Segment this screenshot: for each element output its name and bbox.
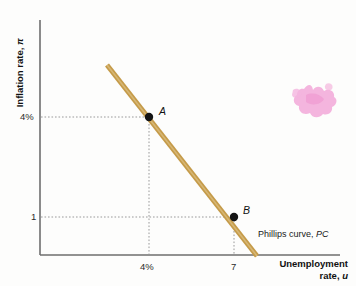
data-point-b	[230, 213, 238, 221]
x-tick-label-7: 7	[231, 262, 236, 272]
chart-canvas	[0, 0, 356, 286]
phillips-curve-figure: Inflation rate, π Unemployment rate, u 4…	[0, 0, 356, 286]
curve-label-symbol: PC	[316, 229, 329, 239]
y-axis-title-symbol: π	[14, 38, 25, 45]
curve-label-name: Phillips curve	[258, 229, 311, 239]
data-point-label-a: A	[159, 106, 166, 117]
x-axis-title-line2: rate, u	[279, 270, 348, 282]
x-axis-title-symbol: u	[342, 270, 348, 281]
data-point-label-b: B	[243, 205, 250, 216]
y-axis-title-text: Inflation rate,	[14, 48, 25, 108]
phillips-curve-highlight	[107, 65, 257, 256]
curve-label-comma: ,	[311, 229, 314, 239]
x-axis-title: Unemployment rate, u	[279, 258, 348, 281]
y-tick-label-1: 1	[31, 212, 36, 222]
y-axis-title: Inflation rate, π	[15, 23, 25, 123]
x-tick-label-4pct: 4%	[140, 262, 154, 272]
x-axis-title-text2: rate,	[319, 270, 339, 281]
curve-label: Phillips curve, PC	[258, 230, 329, 239]
x-axis-title-line1: Unemployment	[279, 258, 348, 270]
data-point-a	[145, 113, 153, 121]
y-tick-label-4pct: 4%	[20, 112, 34, 122]
